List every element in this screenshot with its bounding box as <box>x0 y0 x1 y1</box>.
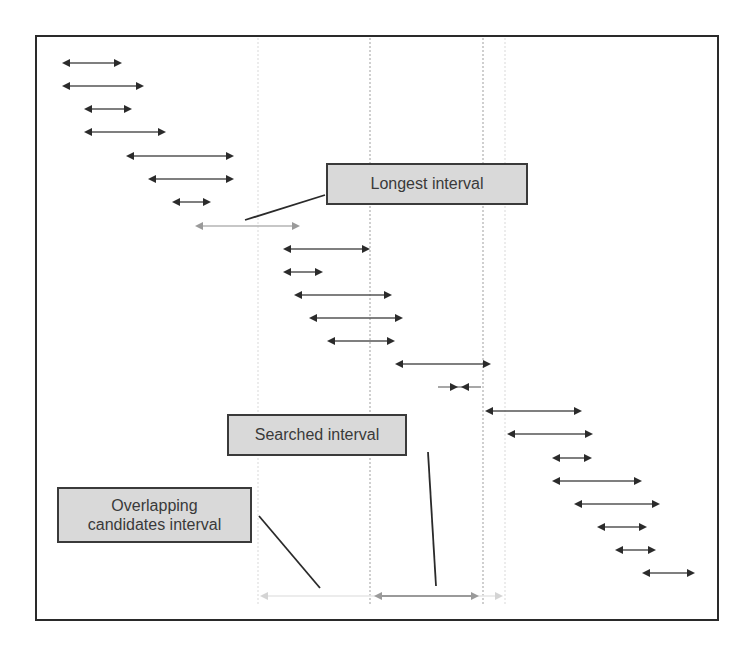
guide-lines <box>258 38 505 605</box>
overlapping-text-line2: candidates interval <box>88 515 221 534</box>
longest-interval-label: Longest interval <box>326 163 528 205</box>
callout-lines <box>245 195 436 588</box>
arrowhead-icon <box>461 383 469 391</box>
searched-interval-label: Searched interval <box>227 414 407 456</box>
arrowhead-icon <box>450 383 458 391</box>
longest-interval-text: Longest interval <box>371 174 484 193</box>
overlapping-candidates-label: Overlapping candidates interval <box>57 487 252 543</box>
searched-interval-text: Searched interval <box>255 425 380 444</box>
callout-line-overlapping <box>259 516 320 588</box>
overlapping-text-line1: Overlapping <box>111 496 197 515</box>
callout-line-longest <box>245 195 325 220</box>
interval-diagram <box>0 0 748 652</box>
callout-line-searched <box>428 452 436 586</box>
